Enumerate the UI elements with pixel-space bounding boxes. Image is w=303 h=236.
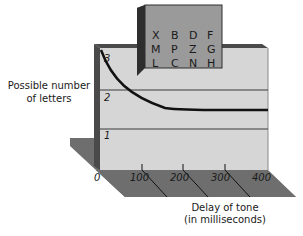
letter-x: X — [152, 29, 160, 42]
x-axis-label-line2: (in milliseconds) — [170, 214, 280, 226]
letter-c: C — [171, 57, 179, 70]
letter-f: F — [207, 29, 213, 42]
letter-m: M — [151, 43, 161, 56]
letter-d: D — [189, 29, 197, 42]
letter-b: B — [171, 29, 179, 42]
y-axis-label: Possible number of letters — [4, 79, 94, 105]
letter-g: G — [207, 43, 216, 56]
letter-grid: X B D F M P Z G L C N H — [0, 0, 303, 236]
letter-p: P — [171, 43, 178, 56]
y-axis-label-line2: of letters — [4, 92, 94, 105]
letter-z: Z — [189, 43, 197, 56]
letter-n: N — [189, 57, 197, 70]
y-axis-label-line1: Possible number — [4, 79, 94, 92]
x-axis-label: Delay of tone (in milliseconds) — [170, 202, 280, 226]
x-axis-label-line1: Delay of tone — [170, 202, 280, 214]
letter-h: H — [207, 57, 215, 70]
letter-l: L — [152, 57, 159, 70]
